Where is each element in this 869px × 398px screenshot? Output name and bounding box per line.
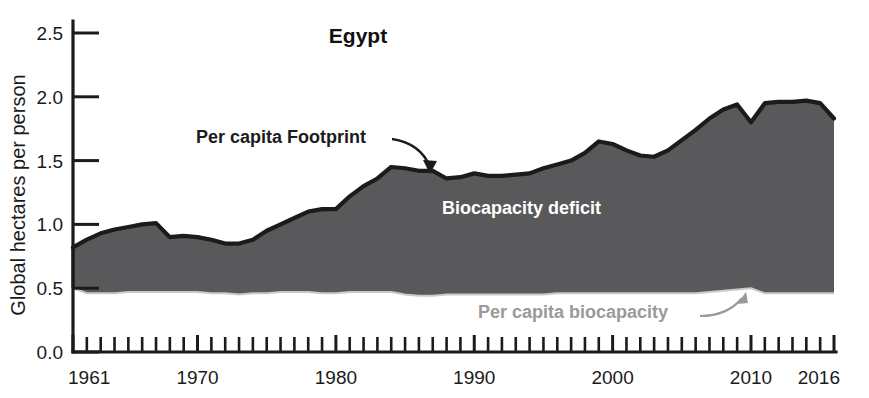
ecological-footprint-area-chart: 0.00.51.01.52.02.51961197019801990200020… — [0, 0, 869, 398]
y-axis-tick-label: 0.0 — [37, 342, 63, 363]
x-axis-tick-label: 1980 — [315, 367, 357, 388]
y-axis-tick-label: 2.5 — [37, 23, 63, 44]
x-axis-tick-label: 2010 — [730, 367, 772, 388]
footprint-callout-arrow-icon — [392, 139, 430, 167]
y-axis-tick-label: 2.0 — [37, 87, 63, 108]
chart-figure: 0.00.51.01.52.02.51961197019801990200020… — [0, 0, 869, 398]
y-axis-tick-label: 1.5 — [37, 151, 63, 172]
x-axis-tick-label: 2016 — [798, 367, 840, 388]
annotation-biocapacity-deficit: Biocapacity deficit — [442, 198, 601, 218]
biocapacity-callout-arrow-icon — [700, 298, 742, 316]
x-axis-tick-label: 1961 — [68, 367, 110, 388]
x-axis-tick-label: 1990 — [453, 367, 495, 388]
x-axis-tick-label: 1970 — [176, 367, 218, 388]
x-axis-tick-label: 2000 — [591, 367, 633, 388]
biocapacity-callout-arrowhead-icon — [737, 292, 748, 304]
y-axis-tick-label: 1.0 — [37, 214, 63, 235]
annotation-per-capita-biocapacity: Per capita biocapacity — [478, 302, 668, 322]
y-axis-title: Global hectares per person — [7, 74, 29, 315]
y-axis-tick-label: 0.5 — [37, 278, 63, 299]
chart-title: Egypt — [329, 24, 387, 47]
annotation-per-capita-footprint: Per capita Footprint — [196, 127, 366, 147]
